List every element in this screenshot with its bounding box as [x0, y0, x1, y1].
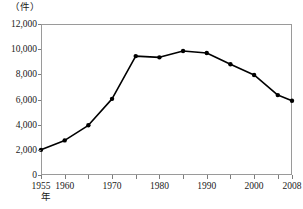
x-tick-label: 2008 — [283, 181, 302, 192]
series-layer — [0, 0, 303, 209]
data-point — [157, 55, 161, 59]
x-tick-label: 2000 — [245, 181, 264, 192]
line-chart: （件） 年 02,0004,0006,0008,00010,00012,0001… — [0, 0, 303, 209]
data-point — [86, 123, 90, 127]
x-tick-label: 1990 — [197, 181, 216, 192]
x-tick-mark — [88, 175, 89, 179]
x-tick-mark — [292, 175, 293, 179]
x-tick-mark — [65, 175, 66, 179]
y-tick-mark — [38, 125, 41, 126]
y-tick-label: 10,000 — [11, 44, 37, 54]
data-point — [62, 138, 66, 142]
x-tick-label: 1955 — [32, 181, 51, 192]
y-tick-label: 12,000 — [11, 19, 37, 29]
x-tick-label: 1960 — [55, 181, 74, 192]
data-point — [276, 93, 280, 97]
y-tick-label: 0 — [32, 170, 37, 180]
data-point — [205, 51, 209, 55]
y-tick-mark — [38, 74, 41, 75]
x-tick-mark — [254, 175, 255, 179]
y-tick-label: 6,000 — [16, 95, 37, 105]
x-tick-mark — [230, 175, 231, 179]
x-tick-mark — [136, 175, 137, 179]
x-tick-label: 1970 — [103, 181, 122, 192]
data-point — [181, 49, 185, 53]
y-tick-label: 2,000 — [16, 145, 37, 155]
y-tick-label: 8,000 — [16, 69, 37, 79]
x-tick-mark — [207, 175, 208, 179]
x-tick-mark — [159, 175, 160, 179]
x-tick-label: 1980 — [150, 181, 169, 192]
y-tick-mark — [38, 100, 41, 101]
x-tick-mark — [183, 175, 184, 179]
data-point — [252, 73, 256, 77]
y-tick-label: 4,000 — [16, 120, 37, 130]
x-tick-mark — [41, 175, 42, 179]
series-line — [41, 51, 292, 150]
data-point — [110, 97, 114, 101]
y-tick-mark — [38, 49, 41, 50]
x-tick-mark — [112, 175, 113, 179]
y-tick-mark — [38, 150, 41, 151]
x-tick-mark — [278, 175, 279, 179]
data-point — [290, 99, 294, 103]
data-point — [228, 62, 232, 66]
data-point — [134, 54, 138, 58]
y-tick-mark — [38, 24, 41, 25]
series-markers — [39, 49, 294, 152]
